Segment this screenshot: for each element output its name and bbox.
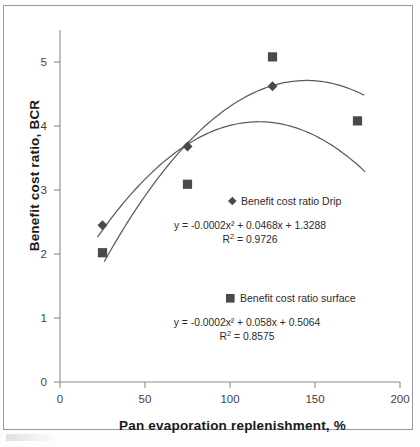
diamond-data-point bbox=[98, 220, 108, 230]
square-data-point bbox=[268, 52, 277, 61]
y-tick-label: 3 bbox=[41, 184, 47, 196]
x-tickmarks bbox=[60, 382, 400, 388]
x-tick-label: 200 bbox=[390, 393, 409, 405]
y-axis-title: Benefit cost ratio, BCR bbox=[27, 76, 42, 276]
x-tick-label: 150 bbox=[305, 393, 324, 405]
y-tick-labels: 0 1 2 3 4 5 bbox=[41, 56, 48, 388]
scan-artifact bbox=[6, 434, 52, 441]
legend-block-drip: Benefit cost ratio Drip y = -0.0002x² + … bbox=[174, 195, 342, 245]
legend-block-surface: Benefit cost ratio surface y = -0.0002x²… bbox=[174, 292, 356, 342]
equation-surface: y = -0.0002x² + 0.058x + 0.5064 bbox=[174, 317, 321, 328]
diamond-data-point bbox=[183, 141, 193, 151]
data-points-drip bbox=[98, 81, 278, 230]
chart-figure: 0 1 2 3 4 5 0 50 100 150 200 bbox=[0, 0, 420, 447]
y-tick-label: 5 bbox=[41, 56, 47, 68]
diamond-data-point bbox=[268, 81, 278, 91]
r2-surface: R2 = 0.8575 bbox=[220, 329, 275, 342]
square-marker-icon bbox=[226, 294, 235, 303]
diamond-marker-icon bbox=[228, 197, 237, 206]
y-tick-label: 4 bbox=[41, 120, 48, 132]
x-tick-labels: 0 50 100 150 200 bbox=[57, 393, 410, 405]
y-tickmarks bbox=[54, 62, 60, 382]
x-tick-label: 0 bbox=[57, 393, 63, 405]
chart-canvas: 0 1 2 3 4 5 0 50 100 150 200 bbox=[0, 0, 420, 447]
x-axis-title: Pan evaporation replenishment, % bbox=[60, 418, 405, 433]
legend-label-drip: Benefit cost ratio Drip bbox=[241, 195, 342, 207]
square-data-point bbox=[98, 248, 107, 257]
square-data-point bbox=[353, 116, 362, 125]
y-tick-label: 0 bbox=[41, 376, 47, 388]
y-tick-label: 1 bbox=[41, 312, 47, 324]
equation-surface-text: y = -0.0002x² + 0.058x + 0.5064 bbox=[174, 317, 321, 328]
x-tick-label: 50 bbox=[139, 393, 152, 405]
equation-drip-text: y = -0.0002x² + 0.0468x + 1.3288 bbox=[174, 220, 326, 231]
equation-drip: y = -0.0002x² + 0.0468x + 1.3288 bbox=[174, 220, 326, 231]
square-data-point bbox=[183, 180, 192, 189]
legend-label-surface: Benefit cost ratio surface bbox=[240, 292, 356, 304]
y-tick-label: 2 bbox=[41, 248, 47, 260]
x-tick-label: 100 bbox=[220, 393, 239, 405]
r2-drip: R2 = 0.9726 bbox=[223, 232, 278, 245]
